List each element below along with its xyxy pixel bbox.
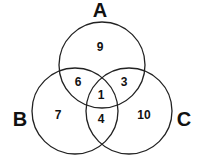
circle-c	[86, 68, 172, 154]
venn-diagram: A B C 9 6 3 1 7 4 10	[0, 0, 197, 162]
region-a-b-c: 1	[98, 88, 105, 102]
region-a-only: 9	[97, 40, 104, 54]
region-a-c: 3	[121, 75, 128, 89]
label-a: A	[93, 0, 107, 21]
label-c: C	[177, 108, 191, 130]
label-b: B	[13, 108, 27, 130]
region-c-only: 10	[137, 108, 151, 122]
region-a-b: 6	[75, 75, 82, 89]
region-b-c: 4	[98, 112, 105, 126]
region-b-only: 7	[55, 108, 62, 122]
